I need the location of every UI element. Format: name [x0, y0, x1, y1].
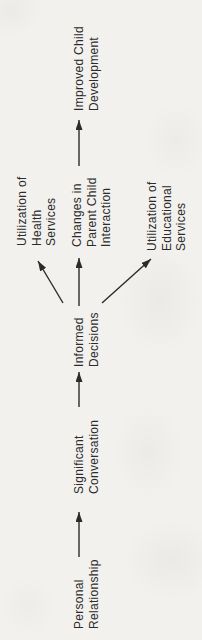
scanned-diagram-page: Improved Child Development Utilization o… — [0, 0, 202, 640]
arrow-informed-to-educational — [102, 259, 151, 303]
node-changes-parent-child-interaction: Changes in Parent Child Interaction — [70, 171, 114, 247]
node-utilization-educational-services: Utilization of Educational Services — [145, 173, 189, 251]
arrow-informed-to-health — [38, 261, 63, 303]
node-significant-conversation: Significant Conversation — [72, 416, 101, 494]
node-utilization-health-services: Utilization of Health Services — [15, 160, 59, 246]
node-personal-relationship: Personal Relationship — [72, 559, 101, 629]
node-informed-decisions: Informed Decisions — [72, 303, 101, 367]
node-improved-child-development: Improved Child Development — [72, 21, 101, 111]
